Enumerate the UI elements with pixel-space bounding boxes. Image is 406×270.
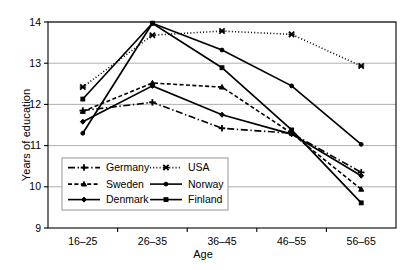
x-tick-label: 36–45 bbox=[207, 235, 236, 247]
marker-square bbox=[164, 198, 168, 202]
marker-circle bbox=[290, 84, 294, 88]
x-tick-label: 26–35 bbox=[138, 235, 167, 247]
y-tick-label: 12 bbox=[29, 98, 41, 110]
marker-triangle bbox=[80, 109, 85, 114]
marker-circle bbox=[164, 182, 168, 186]
legend-label-germany: Germany bbox=[106, 161, 150, 173]
marker-circle bbox=[220, 48, 224, 52]
marker-square bbox=[290, 128, 294, 132]
marker-circle bbox=[359, 142, 363, 146]
plot-area: 9101112131416–2526–3536–4546–5556–65Germ… bbox=[0, 0, 406, 270]
y-tick-label: 14 bbox=[29, 16, 41, 28]
legend-label-usa: USA bbox=[188, 161, 210, 173]
education-by-age-line-chart: Years of education 9101112131416–2526–35… bbox=[0, 0, 406, 270]
series-line-usa bbox=[83, 31, 361, 87]
marker-square bbox=[220, 66, 224, 70]
x-tick-label: 46–55 bbox=[277, 235, 306, 247]
marker-diamond bbox=[220, 112, 225, 117]
marker-cross-x bbox=[289, 32, 295, 37]
legend-label-sweden: Sweden bbox=[106, 178, 144, 190]
marker-cross-x bbox=[219, 28, 225, 33]
y-tick-label: 13 bbox=[29, 57, 41, 69]
y-tick-label: 10 bbox=[29, 180, 41, 192]
y-tick-label: 11 bbox=[30, 139, 41, 151]
marker-circle bbox=[81, 131, 85, 135]
marker-triangle bbox=[219, 84, 224, 89]
x-tick-label: 56–65 bbox=[347, 235, 376, 247]
marker-cross-x bbox=[80, 84, 86, 89]
marker-square bbox=[359, 201, 363, 205]
y-tick-label: 9 bbox=[35, 222, 41, 234]
marker-cross-x bbox=[358, 63, 364, 68]
marker-square bbox=[81, 97, 85, 101]
marker-square bbox=[150, 21, 154, 25]
marker-plus bbox=[219, 125, 226, 132]
legend-label-denmark: Denmark bbox=[106, 193, 149, 205]
legend-label-finland: Finland bbox=[188, 193, 223, 205]
x-tick-label: 16–25 bbox=[68, 235, 97, 247]
legend-label-norway: Norway bbox=[188, 178, 224, 190]
series-usa bbox=[80, 28, 364, 89]
chart-legend: GermanyUSASwedenNorwayDenmarkFinland bbox=[62, 158, 228, 210]
x-axis-title: Age bbox=[0, 248, 406, 260]
marker-cross-x bbox=[149, 33, 155, 38]
